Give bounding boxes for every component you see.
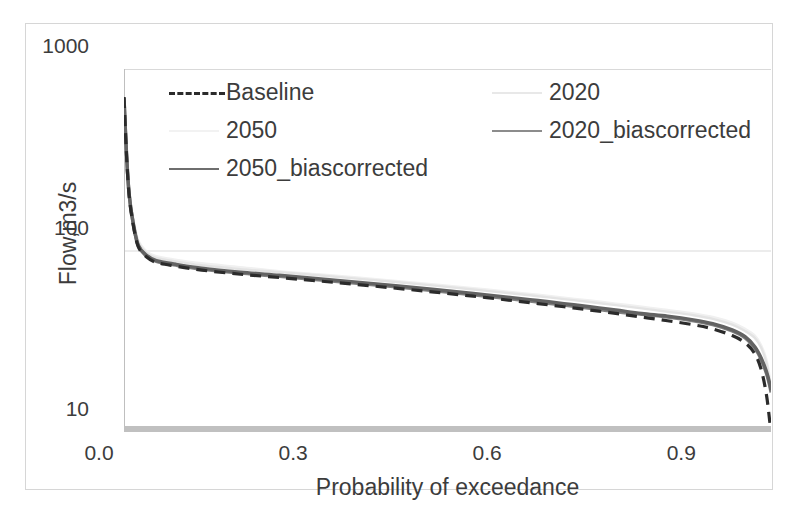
x-axis-tick-labels: 0.00.30.60.9	[26, 442, 799, 472]
legend-swatch-2020_biascorrected-line-icon	[492, 130, 542, 132]
legend-label-2020_biascorrected: 2020_biascorrected	[549, 114, 751, 146]
legend-label-2020: 2020	[549, 76, 600, 108]
chart-figure: 100010010 Flow,m3/s 0.00.30.60.9 Probabi…	[0, 0, 799, 513]
y-axis-title: Flow,m3/s	[55, 154, 82, 314]
x-axis-title: Probability of exceedance	[124, 474, 771, 501]
y-tick-label-10: 1000	[26, 35, 89, 56]
legend-label-2050_biascorrected: 2050_biascorrected	[226, 152, 428, 184]
legend-swatch-2050-line-icon	[169, 130, 219, 132]
x-tick-label-0-9: 0.9	[667, 442, 696, 463]
chart-frame: 100010010 Flow,m3/s 0.00.30.60.9 Probabi…	[25, 23, 773, 490]
y-tick-label-1000: 10	[26, 398, 89, 419]
legend-swatch-2050_biascorrected-line-icon	[169, 168, 219, 170]
x-tick-label-0: 0.0	[84, 442, 113, 463]
legend-label-2050: 2050	[226, 114, 277, 146]
x-tick-label-0-6: 0.6	[473, 442, 502, 463]
legend-swatch-2020-line-icon	[492, 92, 542, 94]
legend-swatch-baseline-line-icon	[169, 92, 225, 95]
legend-label-baseline: Baseline	[226, 76, 314, 108]
x-tick-label-0-3: 0.3	[278, 442, 307, 463]
chart-legend: Baseline202020502020_biascorrected2050_b…	[169, 76, 779, 191]
